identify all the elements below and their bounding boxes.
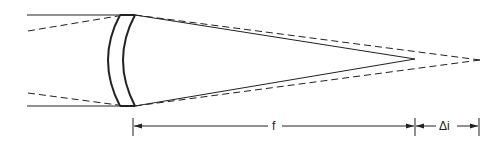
arrowhead-di-left	[416, 124, 424, 129]
dashed-ray-top-in	[28, 16, 118, 31]
solid-ray-top-out	[135, 15, 415, 59]
solid-ray-bottom-out	[135, 59, 415, 106]
lens-front-surface	[108, 15, 120, 106]
focal-length-label: f	[269, 119, 278, 133]
arrowhead-f-left	[134, 124, 142, 129]
image-shift-label: Δi	[436, 119, 453, 133]
dashed-ray-bottom-out	[135, 60, 480, 106]
dashed-ray-bottom-in	[28, 93, 118, 105]
optics-diagram	[0, 0, 502, 146]
arrowhead-f-right	[406, 124, 414, 129]
arrowhead-di-right	[470, 124, 478, 129]
lens-back-surface	[123, 15, 135, 106]
dashed-ray-top-out	[135, 15, 480, 60]
